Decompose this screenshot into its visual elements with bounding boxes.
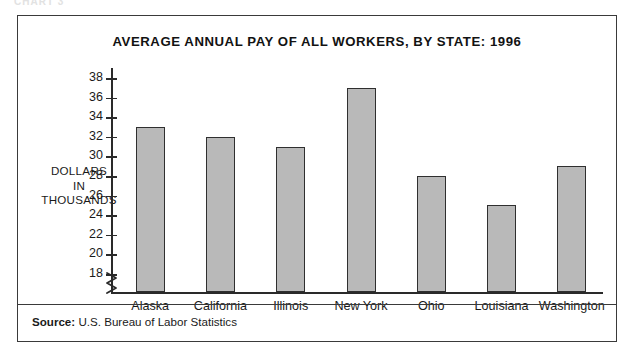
- bar: [417, 176, 446, 292]
- bar: [276, 147, 305, 292]
- y-axis-tick-mark: [106, 78, 117, 80]
- x-axis-category-label: Washington: [539, 299, 605, 313]
- y-axis-tick-label: 24: [89, 207, 103, 222]
- figure-frame: AVERAGE ANNUAL PAY OF ALL WORKERS, BY ST…: [17, 15, 617, 342]
- x-axis-category-label: New York: [334, 299, 387, 313]
- y-axis-tick-mark: [106, 117, 117, 119]
- y-axis-tick-label: 22: [89, 227, 103, 242]
- y-axis-tick-mark: [106, 254, 117, 256]
- y-axis-label: DOLLARS IN THOUSANDS: [40, 164, 118, 208]
- cropped-page-header: CHART 3: [14, 0, 64, 7]
- bar: [557, 166, 586, 292]
- y-axis-tick-label: 38: [89, 70, 103, 85]
- y-axis-tick-mark: [106, 235, 117, 237]
- y-axis-tick-label: 34: [89, 109, 103, 124]
- x-axis-category-label: Ohio: [418, 299, 445, 313]
- bar: [136, 127, 165, 292]
- y-axis-line: [111, 68, 113, 294]
- source-label: Source:: [32, 315, 75, 328]
- y-axis-tick-label: 26: [89, 188, 103, 203]
- x-axis-category-label: Alaska: [131, 299, 169, 313]
- y-axis-tick-mark: [106, 215, 117, 217]
- source-text: U.S. Bureau of Labor Statistics: [78, 315, 237, 328]
- x-axis-category-label: Louisiana: [475, 299, 529, 313]
- x-axis-line: [111, 292, 603, 294]
- y-axis-tick-label: 28: [89, 168, 103, 183]
- bar: [347, 88, 376, 292]
- y-axis-tick-mark: [106, 196, 117, 198]
- y-axis-tick-label: 20: [89, 246, 103, 261]
- x-axis-category-label: Illinois: [273, 299, 308, 313]
- source-note: Source: U.S. Bureau of Labor Statistics: [32, 315, 237, 328]
- y-axis-tick-label: 18: [89, 266, 103, 281]
- y-axis-tick-mark: [106, 137, 117, 139]
- y-axis-tick-label: 30: [89, 148, 103, 163]
- y-axis-tick-label: 32: [89, 129, 103, 144]
- y-axis-tick-mark: [106, 98, 117, 100]
- y-axis-tick-label: 36: [89, 90, 103, 105]
- y-axis-tick-mark: [106, 176, 117, 178]
- chart-page: CHART 3 AVERAGE ANNUAL PAY OF ALL WORKER…: [0, 0, 635, 361]
- y-axis-label-line-2: IN: [73, 179, 85, 192]
- y-axis-tick-mark: [106, 156, 117, 158]
- axis-break-icon: [103, 270, 125, 296]
- plot-area: 3836343230282624222018 AlaskaCaliforniaI…: [111, 68, 603, 294]
- source-divider: [18, 304, 616, 305]
- bar: [206, 137, 235, 292]
- bar: [487, 205, 516, 292]
- x-axis-category-label: California: [194, 299, 247, 313]
- chart-title: AVERAGE ANNUAL PAY OF ALL WORKERS, BY ST…: [18, 34, 616, 49]
